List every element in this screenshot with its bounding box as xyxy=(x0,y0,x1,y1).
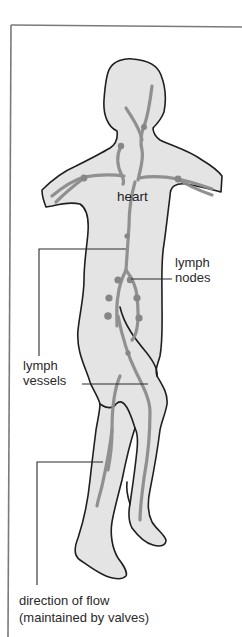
direction-of-flow-label-line2: (maintained by valves) xyxy=(19,609,149,626)
lymphatic-system-figure xyxy=(0,0,242,637)
lymph-nodes-label: lymph nodes xyxy=(175,255,210,285)
body-silhouette xyxy=(42,59,222,579)
heart-label-text: heart xyxy=(117,189,148,204)
direction-of-flow-label: direction of flow (maintained by valves) xyxy=(19,592,149,626)
lymph-nodes-label-line1: lymph xyxy=(175,255,210,270)
lymph-nodes-label-line2: nodes xyxy=(175,270,210,285)
lymph-vessels-label: lymph vessels xyxy=(23,358,66,388)
diagram-frame: heart lymph nodes lymph vessels directio… xyxy=(0,0,242,637)
direction-of-flow-label-line1: direction of flow xyxy=(19,592,149,609)
lymph-vessels-label-line2: vessels xyxy=(23,373,66,388)
heart-label: heart xyxy=(117,189,148,204)
lymph-vessels-label-line1: lymph xyxy=(23,358,66,373)
